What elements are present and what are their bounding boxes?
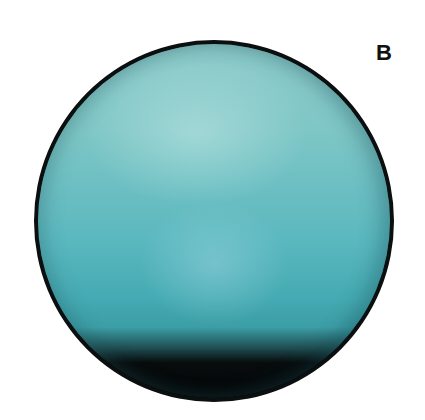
planet-disk <box>34 40 394 402</box>
panel-label: B <box>376 42 392 64</box>
